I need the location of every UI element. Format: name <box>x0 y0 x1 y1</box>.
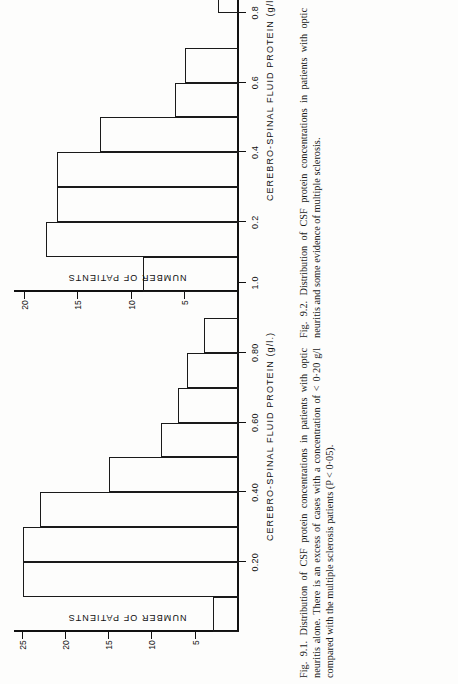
y-axis-tick-label: 15 <box>104 640 114 666</box>
x-axis-tick <box>239 151 246 152</box>
x-axis-tick <box>239 82 246 83</box>
y-axis-tick-label: 10 <box>147 640 157 666</box>
y-axis-line-9-1 <box>14 630 239 632</box>
x-axis-tick <box>239 491 246 492</box>
chart-9-1: 5101520250.200.400.600.801.0 NUMBER OF P… <box>8 233 275 678</box>
x-axis-tick-label: 0.4 <box>250 146 260 159</box>
x-axis-tick-label: 0.8 <box>250 6 260 19</box>
histogram-bar <box>175 83 239 118</box>
histogram-bar <box>23 562 239 597</box>
histogram-bar <box>100 117 239 152</box>
x-axis-tick <box>239 352 246 353</box>
y-axis-title-9-1: NUMBER OF PATIENTS <box>37 613 217 623</box>
y-axis-tick <box>65 632 66 639</box>
histogram-bar <box>218 0 239 13</box>
y-axis-tick <box>151 632 152 639</box>
histogram-bar <box>185 48 239 83</box>
x-axis-tick-label: 0.60 <box>250 413 260 432</box>
histogram-bar <box>187 353 239 388</box>
x-axis-tick-label: 0.2 <box>250 215 260 228</box>
x-axis-tick <box>239 422 246 423</box>
x-axis-tick-label: 0.40 <box>250 483 260 502</box>
histogram-bar <box>161 423 239 458</box>
histogram-bar <box>204 318 239 353</box>
y-axis-tick-label: 5 <box>191 640 201 666</box>
histogram-bar <box>109 457 239 492</box>
y-axis-tick-label: 25 <box>18 640 28 666</box>
x-axis-tick-label: 0.20 <box>250 553 260 572</box>
y-axis-tick-label: 20 <box>61 640 71 666</box>
histogram-bar <box>178 388 239 423</box>
figure-9-1: 5101520250.200.400.600.801.0 NUMBER OF P… <box>8 348 453 678</box>
x-axis-tick <box>239 282 246 283</box>
histogram-bar <box>57 152 239 187</box>
histogram-bar <box>23 527 239 562</box>
figure-caption-9-2: Fig. 9.2. Distribution of CSF protein co… <box>297 8 323 338</box>
x-axis-title-9-1: CEREBRO-SPINAL FLUID PROTEIN (g/l.) <box>265 241 275 632</box>
figure-caption-9-1: Fig. 9.1. Distribution of CSF protein co… <box>297 348 337 678</box>
histogram-bar <box>57 187 239 222</box>
y-axis-tick <box>22 632 23 639</box>
x-axis-tick <box>239 561 246 562</box>
x-axis-tick <box>239 221 246 222</box>
plot-area-9-1: 5101520250.200.400.600.801.0 NUMBER OF P… <box>14 241 239 632</box>
x-axis-tick-label: 1.0 <box>250 276 260 289</box>
x-axis-tick <box>239 12 246 13</box>
x-axis-tick-label: 0.80 <box>250 343 260 362</box>
scanned-page: 51015200.20.40.60.81.0 NUMBER OF PATIENT… <box>0 0 458 684</box>
histogram-bar <box>40 492 239 527</box>
x-axis-tick-label: 0.6 <box>250 76 260 89</box>
y-axis-tick <box>108 632 109 639</box>
y-axis-tick <box>195 632 196 639</box>
